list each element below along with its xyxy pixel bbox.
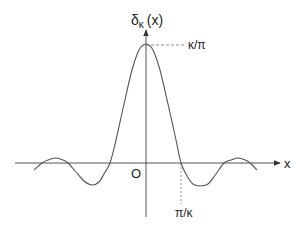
zero-crossing-label: π/κ xyxy=(175,206,194,220)
y-axis-label: δκ(x) xyxy=(131,12,163,30)
peak-value-label: κ/π xyxy=(188,38,206,52)
origin-label: O xyxy=(131,166,141,181)
sinc-function-diagram: δκ(x) κ/π x O π/κ xyxy=(0,0,302,232)
x-axis-label: x xyxy=(284,156,291,171)
